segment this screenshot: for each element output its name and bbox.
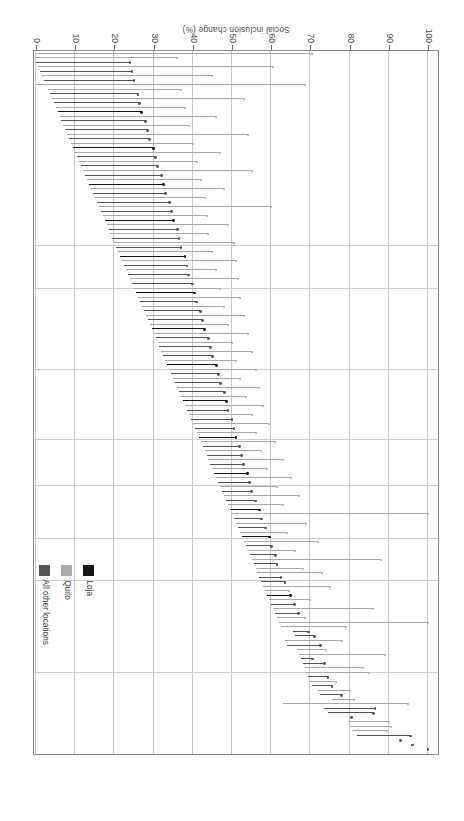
value-dot — [254, 500, 257, 503]
range-segment — [246, 545, 271, 546]
range-segment — [73, 147, 153, 148]
value-dot — [148, 138, 151, 141]
range-segment — [60, 116, 217, 117]
range-segment — [310, 681, 335, 682]
value-dot — [239, 297, 241, 299]
value-dot — [274, 441, 276, 443]
range-segment — [312, 685, 332, 686]
value-dot — [280, 576, 283, 579]
range-segment — [50, 93, 138, 94]
range-segment — [189, 414, 252, 415]
range-segment — [248, 550, 295, 551]
x-tick-30 — [154, 45, 155, 50]
range-segment — [105, 220, 174, 221]
range-segment — [54, 102, 140, 103]
range-segment — [36, 84, 305, 85]
value-dot — [162, 183, 165, 186]
range-segment — [195, 428, 234, 429]
range-segment — [203, 446, 240, 447]
gridline-y — [34, 538, 438, 539]
value-dot — [264, 527, 267, 530]
range-segment — [36, 62, 130, 63]
value-dot — [140, 111, 143, 114]
value-dot — [304, 617, 306, 619]
x-tick-40 — [193, 45, 194, 50]
value-dot — [255, 369, 257, 371]
value-dot — [362, 667, 364, 669]
value-dot — [184, 255, 187, 258]
value-dot — [349, 690, 351, 692]
range-segment — [357, 735, 410, 736]
range-segment — [146, 315, 244, 316]
range-segment — [220, 486, 277, 487]
range-segment — [158, 342, 232, 343]
value-dot — [341, 640, 343, 642]
range-segment — [93, 193, 166, 194]
range-segment — [118, 251, 212, 252]
value-dot — [260, 450, 262, 452]
value-dot — [239, 378, 241, 380]
range-segment — [75, 152, 220, 153]
value-dot — [258, 387, 260, 389]
value-dot — [154, 156, 157, 159]
value-dot — [372, 608, 374, 610]
range-segment — [87, 179, 201, 180]
range-segment — [306, 672, 369, 673]
range-segment — [140, 301, 197, 302]
value-dot — [258, 509, 261, 512]
range-segment — [238, 527, 265, 528]
value-dot — [240, 454, 243, 457]
value-dot — [200, 179, 202, 181]
range-segment — [154, 333, 248, 334]
range-segment — [134, 288, 220, 289]
range-segment — [42, 75, 213, 76]
range-segment — [152, 328, 205, 329]
value-dot — [242, 463, 245, 466]
value-dot — [246, 472, 249, 475]
value-dot — [225, 400, 228, 403]
value-dot — [304, 84, 306, 86]
value-dot — [298, 495, 300, 497]
x-tick-20 — [114, 45, 115, 50]
value-dot — [199, 310, 202, 313]
value-dot — [290, 477, 292, 479]
value-dot — [297, 613, 300, 616]
range-segment — [265, 590, 289, 591]
value-dot — [201, 319, 204, 322]
range-segment — [263, 586, 330, 587]
value-dot — [327, 676, 330, 679]
range-segment — [277, 617, 304, 618]
range-segment — [177, 387, 259, 388]
value-dot — [138, 102, 141, 105]
range-segment — [187, 410, 228, 411]
range-segment — [112, 238, 179, 239]
value-dot — [311, 658, 314, 661]
value-dot — [231, 342, 233, 344]
value-dot — [215, 364, 218, 367]
range-segment — [285, 640, 342, 641]
legend-label: Loja — [86, 580, 94, 596]
value-dot — [274, 554, 277, 557]
range-segment — [36, 57, 177, 58]
value-dot — [184, 107, 186, 109]
value-dot — [209, 346, 212, 349]
x-tick-90 — [389, 45, 390, 50]
value-dot — [227, 224, 229, 226]
gridline-x-60 — [270, 51, 271, 754]
range-segment — [161, 351, 251, 352]
range-segment — [348, 721, 389, 722]
range-segment — [308, 676, 328, 677]
range-segment — [191, 419, 232, 420]
range-segment — [48, 89, 181, 90]
range-segment — [132, 283, 193, 284]
range-segment — [163, 355, 212, 356]
range-segment — [136, 292, 195, 293]
value-dot — [192, 143, 194, 145]
range-segment — [101, 211, 172, 212]
value-dot — [345, 626, 347, 628]
range-segment — [261, 581, 285, 582]
range-segment — [305, 667, 364, 668]
value-dot — [340, 694, 343, 697]
value-dot — [243, 98, 245, 100]
value-dot — [282, 459, 284, 461]
